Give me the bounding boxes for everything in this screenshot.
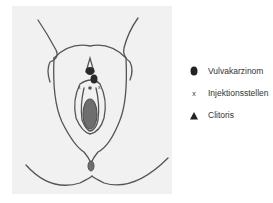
svg-text:x: x [78,84,81,90]
legend-item-clitoris: Clitoris [188,110,234,120]
x-mark-icon: x [188,90,200,97]
legend-item-tumor: Vulvakarzinom [188,66,263,76]
legend-item-injection: x Injektionsstellen [188,88,268,98]
legend-label: Injektionsstellen [208,88,268,98]
triangle-icon [188,111,200,120]
tumor-icon [188,66,200,76]
anatomy-figure: x x [12,6,172,194]
legend-label: Vulvakarzinom [208,66,263,76]
legend-label: Clitoris [208,110,234,120]
vulva-diagram: x x [0,0,273,203]
